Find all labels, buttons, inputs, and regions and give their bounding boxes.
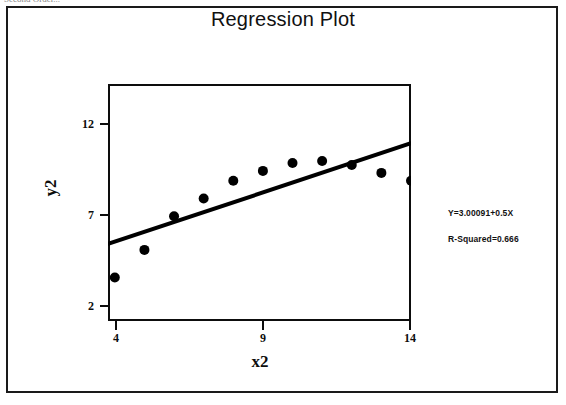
annotations-block: Y=3.00091+0.5X R-Squared=0.666 bbox=[448, 208, 558, 260]
x-tick-mark-9 bbox=[262, 321, 264, 330]
data-points bbox=[110, 156, 411, 283]
data-point bbox=[139, 245, 149, 255]
data-point bbox=[376, 168, 386, 178]
plot-area bbox=[108, 84, 411, 321]
regression-equation-label: Y=3.00091+0.5X bbox=[448, 208, 558, 218]
data-point bbox=[288, 158, 298, 168]
data-point bbox=[228, 176, 238, 186]
x-tick-label-9: 9 bbox=[243, 331, 283, 346]
data-point bbox=[317, 156, 327, 166]
data-point bbox=[406, 176, 411, 186]
y-tick-label-2: 2 bbox=[58, 299, 94, 314]
y-axis-label: y2 bbox=[41, 180, 61, 197]
x-axis-label: x2 bbox=[220, 352, 300, 372]
data-point bbox=[258, 166, 268, 176]
screenshot-root: Second Order... Regression Plot 12 7 2 y… bbox=[0, 0, 566, 405]
x-tick-label-14: 14 bbox=[390, 331, 430, 346]
data-point bbox=[199, 194, 209, 204]
data-point bbox=[110, 273, 120, 283]
clipped-header-text: Second Order... bbox=[4, 0, 124, 4]
y-tick-label-7: 7 bbox=[58, 208, 94, 223]
y-tick-label-12: 12 bbox=[58, 117, 94, 132]
regression-line bbox=[108, 143, 411, 244]
data-point bbox=[169, 211, 179, 221]
data-point bbox=[347, 160, 357, 170]
page-title: Regression Plot bbox=[0, 8, 566, 31]
x-tick-mark-4 bbox=[115, 321, 117, 330]
x-tick-label-4: 4 bbox=[96, 331, 136, 346]
x-tick-mark-14 bbox=[409, 321, 411, 330]
r-squared-label: R-Squared=0.666 bbox=[448, 234, 558, 244]
